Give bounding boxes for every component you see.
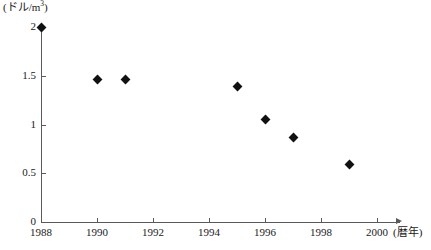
x-axis-tick	[153, 218, 154, 222]
data-point	[260, 115, 270, 125]
x-axis-tick	[377, 218, 378, 222]
y-axis-tick	[42, 222, 46, 223]
data-point	[92, 75, 102, 85]
x-axis-tick-label: 1988	[11, 226, 71, 238]
chart-canvas: (ドル/m3) 00.511.52 1988199019921994199619…	[0, 0, 431, 250]
x-axis-tick	[321, 218, 322, 222]
y-axis-tick	[42, 173, 46, 174]
y-axis-unit-suffix: )	[44, 1, 48, 13]
y-axis-tick-label: 1.5	[0, 70, 36, 81]
x-axis-tick	[265, 218, 266, 222]
x-axis-tick-label: 1998	[291, 226, 351, 238]
data-point	[344, 160, 354, 170]
x-axis-tick-label: 1992	[123, 226, 183, 238]
x-axis-tick	[209, 218, 210, 222]
x-axis-caption: (暦年)	[393, 226, 422, 238]
x-axis-arrow-icon	[396, 218, 402, 224]
data-point	[120, 75, 130, 85]
y-axis-tick-label: 2	[0, 21, 36, 32]
x-axis-tick-label: 1996	[235, 226, 295, 238]
x-axis-tick-label: 1990	[67, 226, 127, 238]
y-axis-tick	[42, 125, 46, 126]
y-axis-tick-label: 0.5	[0, 167, 36, 178]
y-axis-unit-prefix: (ドル/m	[3, 1, 40, 13]
x-axis-tick	[97, 218, 98, 222]
data-point	[232, 82, 242, 92]
y-axis-tick-label: 1	[0, 119, 36, 130]
x-axis-line	[41, 222, 400, 223]
data-point	[36, 22, 46, 32]
y-axis-tick	[42, 76, 46, 77]
y-axis-unit-label: (ドル/m3)	[3, 1, 48, 14]
x-axis-tick-label: 1994	[179, 226, 239, 238]
data-point	[288, 132, 298, 142]
